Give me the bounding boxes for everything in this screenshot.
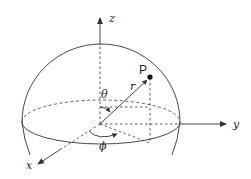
phi-label: ϕ: [99, 140, 107, 153]
theta-label: θ: [101, 88, 108, 101]
y-axis-label: y: [232, 118, 240, 131]
theta-arc: [100, 107, 110, 112]
equator-back-dashed: [22, 100, 180, 122]
point-p: [147, 74, 152, 79]
p-foot-to-origin: [100, 124, 150, 143]
radius-label: r: [130, 80, 136, 93]
x-axis-dashed: [61, 124, 100, 149]
x-axis: [38, 149, 61, 164]
phi-arc: [89, 131, 117, 137]
point-p-label: P: [139, 63, 147, 77]
spherical-coordinates-diagram: z y x P r θ ϕ: [0, 0, 251, 179]
radius-vector: [100, 80, 147, 124]
x-axis-label: x: [26, 159, 33, 172]
z-axis-label: z: [108, 12, 115, 25]
